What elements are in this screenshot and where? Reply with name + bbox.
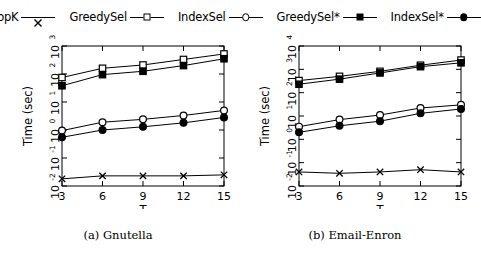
circle-filled-icon <box>99 127 106 134</box>
circle-open-icon <box>221 107 228 114</box>
square-filled-icon <box>140 68 146 74</box>
x-axis-title: T <box>138 203 147 209</box>
x-tick-label: 15 <box>454 190 468 203</box>
chart-panel-email-enron: 10-210-1100101102103104Time (sec)3691215… <box>237 34 473 254</box>
x-tick-label: 15 <box>217 190 231 203</box>
square-filled-icon <box>99 71 105 77</box>
legend-label: TopK <box>0 10 18 24</box>
legend-marker-sample <box>343 11 377 23</box>
square-filled-icon <box>180 62 186 68</box>
data-series <box>296 166 464 176</box>
legend-label: GreedySel <box>69 10 126 24</box>
square-filled-icon <box>417 63 423 69</box>
legend-marker-sample <box>447 11 481 23</box>
svg-text:10: 10 <box>286 92 299 106</box>
circle-filled-icon <box>458 106 465 113</box>
circle-filled-icon <box>59 134 66 141</box>
y-tick-label: 103 <box>48 34 62 59</box>
caption-email-enron: (b) Email-Enron <box>237 228 473 242</box>
y-tick-label: 10-1 <box>48 145 62 171</box>
y-tick-label: 10-1 <box>285 150 299 176</box>
y-tick-label: 101 <box>48 90 62 115</box>
chart-panel-gnutella: 10-210-1100101102103Time (sec)3691215T (… <box>0 34 236 254</box>
caption-gnutella: (a) Gnutella <box>0 228 236 242</box>
legend-label: IndexSel* <box>391 10 444 24</box>
square-filled-icon <box>458 60 464 66</box>
svg-text:-2: -2 <box>48 173 57 181</box>
circle-open-icon <box>180 112 187 119</box>
svg-text:10: 10 <box>286 138 299 152</box>
square-open-icon <box>143 14 150 21</box>
svg-text:Time (sec): Time (sec) <box>258 86 272 147</box>
circle-filled-icon <box>296 129 303 136</box>
legend-entry: IndexSel* <box>391 10 481 24</box>
x-tick-label: 6 <box>336 190 343 203</box>
square-open-icon <box>180 56 186 62</box>
x-axis-title: T <box>375 203 384 209</box>
y-axis-title: Time (sec) <box>258 86 272 147</box>
data-series <box>296 106 465 136</box>
square-open-icon <box>99 65 105 71</box>
data-series <box>296 60 464 88</box>
legend-label: IndexSel <box>178 10 226 24</box>
svg-text:0: 0 <box>48 118 57 123</box>
square-filled-icon <box>336 76 342 82</box>
legend-entry: GreedySel <box>69 10 163 24</box>
svg-text:10: 10 <box>49 157 62 171</box>
svg-text:10: 10 <box>49 101 62 115</box>
legend-entry: GreedySel* <box>277 10 377 24</box>
x-tick-label: 9 <box>377 190 384 203</box>
data-series <box>59 51 227 81</box>
svg-text:10: 10 <box>49 45 62 59</box>
legend-label: GreedySel* <box>277 10 340 24</box>
x-tick-label: 9 <box>140 190 147 203</box>
circle-filled-icon <box>417 110 424 117</box>
square-filled-icon <box>221 56 227 62</box>
svg-text:2: 2 <box>48 62 57 67</box>
x-tick-label: 6 <box>99 190 106 203</box>
data-series <box>296 101 465 130</box>
square-filled-icon <box>59 83 65 89</box>
circle-filled-icon <box>140 123 147 130</box>
y-tick-label: 104 <box>285 34 299 59</box>
x-tick-label: 12 <box>177 190 191 203</box>
legend-entry: TopK <box>0 10 55 24</box>
square-filled-icon <box>356 14 363 21</box>
data-series <box>59 172 227 182</box>
x-tick-label: 3 <box>59 190 66 203</box>
circle-filled-icon <box>377 118 384 125</box>
circle-filled-icon <box>180 119 187 126</box>
svg-text:10: 10 <box>286 45 299 59</box>
cross-icon <box>34 13 43 22</box>
circle-open-icon <box>242 13 250 21</box>
svg-text:1: 1 <box>48 90 57 95</box>
circle-filled-icon <box>221 114 228 121</box>
svg-text:Time (sec): Time (sec) <box>21 86 35 147</box>
circle-filled-icon <box>460 13 468 21</box>
legend-entry: IndexSel <box>178 10 263 24</box>
x-tick-label: 12 <box>414 190 428 203</box>
y-axis-title: Time (sec) <box>21 86 35 147</box>
plot-email-enron: 10-210-1100101102103104Time (sec)3691215… <box>237 34 473 209</box>
circle-open-icon <box>140 116 147 123</box>
svg-text:-1: -1 <box>48 145 57 153</box>
circle-open-icon <box>59 127 66 134</box>
legend-marker-sample <box>21 11 55 23</box>
x-tick-label: 3 <box>296 190 303 203</box>
circle-filled-icon <box>336 122 343 129</box>
svg-text:4: 4 <box>285 34 294 39</box>
chart-legend: TopKGreedySelIndexSelGreedySel*IndexSel* <box>0 0 473 34</box>
circle-open-icon <box>99 119 106 126</box>
legend-marker-sample <box>229 11 263 23</box>
legend-marker-sample <box>130 11 164 23</box>
square-filled-icon <box>296 81 302 87</box>
plot-gnutella: 10-210-1100101102103Time (sec)3691215T <box>0 34 236 209</box>
square-filled-icon <box>377 70 383 76</box>
svg-text:3: 3 <box>48 34 57 39</box>
square-open-icon <box>59 74 65 80</box>
square-open-icon <box>140 62 146 68</box>
